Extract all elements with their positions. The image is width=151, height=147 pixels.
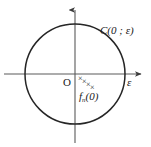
- epsilon-label: ε: [127, 77, 131, 88]
- sequence-point-mark: ×: [90, 84, 95, 92]
- figure-canvas: [0, 0, 151, 147]
- sequence-label: fn(0): [79, 91, 98, 103]
- math-figure: C(0 ; ε) O ε fn(0) × × × ×: [0, 0, 151, 147]
- origin-label: O: [63, 77, 71, 88]
- circle-label: C(0 ; ε): [100, 25, 134, 36]
